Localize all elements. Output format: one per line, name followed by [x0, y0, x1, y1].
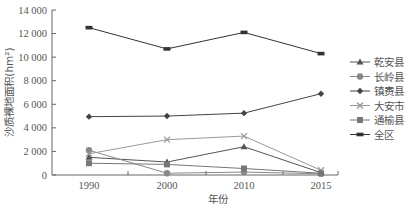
circle-marker-icon: [164, 170, 170, 176]
square-marker-icon: [357, 117, 363, 123]
plot-area: [86, 26, 325, 177]
x-tick-label: 2015: [311, 180, 332, 191]
x-axis: 1990200020102015: [52, 171, 338, 191]
y-tick-label: 2 000: [23, 146, 47, 157]
legend-label: 通榆县: [374, 114, 404, 126]
legend-item: 镇赉县: [350, 85, 404, 97]
y-tick-label: 10 000: [18, 52, 47, 63]
y-tick-label: 4 000: [23, 122, 47, 133]
legend-item: 大安市: [350, 100, 404, 112]
x-axis-title: 年份: [208, 193, 229, 205]
line-chart: 02 0004 0006 0008 00010 00012 00014 000 …: [0, 0, 410, 209]
series-line: [86, 26, 325, 56]
x-tick-label: 2000: [157, 180, 178, 191]
diamond-marker-icon: [357, 88, 363, 94]
triangle-marker-icon: [241, 143, 248, 149]
y-axis: 02 0004 0006 0008 00010 00012 00014 000: [18, 5, 56, 181]
legend: 乾安县长岭县镇赉县大安市通榆县全区: [350, 56, 404, 141]
legend-label: 全区: [374, 129, 394, 141]
circle-marker-icon: [357, 73, 363, 79]
legend-item: 乾安县: [350, 56, 404, 68]
legend-label: 乾安县: [374, 56, 404, 68]
y-tick-label: 6 000: [23, 99, 47, 110]
diamond-marker-icon: [164, 113, 170, 119]
dash-marker-icon: [86, 26, 93, 30]
diamond-marker-icon: [86, 113, 92, 119]
square-marker-icon: [241, 166, 247, 172]
dash-marker-icon: [318, 52, 325, 56]
legend-item: 通榆县: [350, 114, 404, 126]
square-marker-icon: [164, 161, 170, 167]
square-marker-icon: [318, 170, 324, 176]
legend-label: 大安市: [374, 100, 404, 112]
x-tick-label: 1990: [79, 180, 100, 191]
x-tick-label: 2010: [234, 180, 255, 191]
y-tick-label: 8 000: [23, 75, 47, 86]
series-line: [86, 133, 324, 173]
y-tick-label: 0: [42, 170, 47, 181]
legend-label: 长岭县: [374, 71, 404, 83]
square-marker-icon: [86, 160, 92, 166]
dash-marker-icon: [164, 47, 171, 51]
series-line: [86, 90, 324, 119]
dash-marker-icon: [357, 133, 364, 137]
circle-marker-icon: [86, 147, 92, 153]
dash-marker-icon: [241, 31, 248, 35]
y-tick-label: 12 000: [18, 28, 47, 39]
diamond-marker-icon: [318, 90, 324, 96]
legend-item: 长岭县: [350, 71, 404, 83]
y-tick-label: 14 000: [18, 5, 47, 16]
y-axis-title: 沙质裸地面积(hm²): [3, 47, 15, 136]
series-line: [86, 160, 324, 176]
diamond-marker-icon: [241, 110, 247, 116]
legend-label: 镇赉县: [374, 85, 404, 97]
legend-item: 全区: [350, 129, 394, 141]
